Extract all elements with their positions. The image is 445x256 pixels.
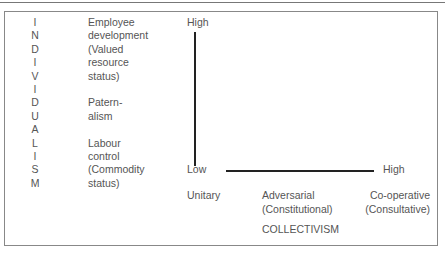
letter: S (29, 163, 41, 176)
level-text: control (88, 150, 148, 163)
letter: D (29, 96, 41, 109)
level-text: Labour (88, 137, 148, 150)
vertical-axis-line (194, 32, 196, 166)
level-text (88, 123, 148, 136)
letter: I (29, 83, 41, 96)
letter: D (29, 43, 41, 56)
letter: I (29, 16, 41, 29)
letter: M (29, 177, 41, 190)
letter: A (29, 123, 41, 136)
collectivism-level-adversarial-sub: (Constitutional) (262, 203, 333, 216)
level-text (88, 83, 148, 96)
level-text: status) (88, 177, 148, 190)
level-text: development (88, 29, 148, 42)
low-label: Low (187, 163, 206, 176)
level-text: (Valued (88, 43, 148, 56)
level-text: status) (88, 70, 148, 83)
level-text: (Commodity (88, 163, 148, 176)
letter: U (29, 110, 41, 123)
level-text: Patern- (88, 96, 148, 109)
horizontal-axis-line (226, 170, 374, 172)
horizontal-high-label: High (383, 163, 405, 176)
letter: L (29, 137, 41, 150)
vertical-high-label: High (187, 16, 209, 29)
letter: V (29, 70, 41, 83)
collectivism-level-cooperative-sub: (Consultative) (365, 203, 430, 216)
individualism-levels: Employee development (Valued resource st… (88, 16, 148, 190)
collectivism-level-adversarial: Adversarial (262, 189, 315, 202)
collectivism-level-unitary: Unitary (187, 189, 220, 202)
top-rule (0, 2, 445, 3)
level-text: alism (88, 110, 148, 123)
collectivism-level-cooperative: Co-operative (370, 189, 430, 202)
level-text: resource (88, 56, 148, 69)
collectivism-axis-title: COLLECTIVISM (262, 223, 339, 236)
individualism-vertical-label: I N D I V I D U A L I S M (29, 16, 41, 190)
letter: I (29, 150, 41, 163)
letter: I (29, 56, 41, 69)
letter: N (29, 29, 41, 42)
level-text: Employee (88, 16, 148, 29)
